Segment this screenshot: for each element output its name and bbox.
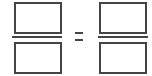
- right-numerator-input[interactable]: [99, 2, 147, 34]
- right-denominator-input[interactable]: [99, 42, 147, 74]
- right-fraction-bar: [98, 36, 148, 38]
- left-numerator-input[interactable]: [14, 2, 62, 34]
- left-denominator-input[interactable]: [14, 42, 62, 74]
- left-fraction-bar: [12, 36, 62, 38]
- equals-top-stroke: [75, 32, 83, 34]
- equals-bottom-stroke: [75, 39, 83, 41]
